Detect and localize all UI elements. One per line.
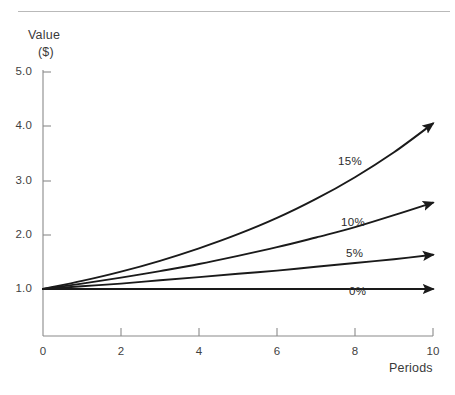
axes bbox=[43, 70, 433, 336]
x-tick-label-2: 2 bbox=[106, 345, 136, 357]
y-tick-label-4: 4.0 bbox=[2, 119, 32, 131]
x-axis-ticks bbox=[121, 328, 433, 336]
x-tick-label-4: 4 bbox=[184, 345, 214, 357]
y-tick-label-2: 2.0 bbox=[2, 228, 32, 240]
y-axis-title-line2: ($) bbox=[38, 45, 54, 60]
compound-growth-line-chart bbox=[0, 0, 455, 395]
chart-figure: Value ($) Periods 5.0 4.0 3.0 2.0 1.0 0 … bbox=[0, 0, 455, 395]
y-axis-ticks bbox=[43, 72, 51, 289]
x-tick-label-0: 0 bbox=[28, 345, 58, 357]
series-annotation-5-percent: 5% bbox=[346, 247, 363, 259]
series-annotation-15-percent: 15% bbox=[338, 155, 362, 167]
x-tick-label-8: 8 bbox=[340, 345, 370, 357]
curve-5-percent bbox=[43, 255, 433, 289]
y-tick-label-1: 1.0 bbox=[2, 282, 32, 294]
x-tick-label-10: 10 bbox=[418, 345, 448, 357]
y-tick-label-3: 3.0 bbox=[2, 174, 32, 186]
series-annotation-0-percent: 0% bbox=[349, 285, 366, 297]
y-tick-label-5: 5.0 bbox=[2, 65, 32, 77]
series-curves bbox=[43, 124, 433, 290]
series-annotation-10-percent: 10% bbox=[341, 216, 365, 228]
curve-15-percent bbox=[43, 124, 433, 290]
x-tick-label-6: 6 bbox=[262, 345, 292, 357]
x-axis-title: Periods bbox=[389, 361, 433, 376]
y-axis-title-line1: Value bbox=[28, 28, 60, 43]
